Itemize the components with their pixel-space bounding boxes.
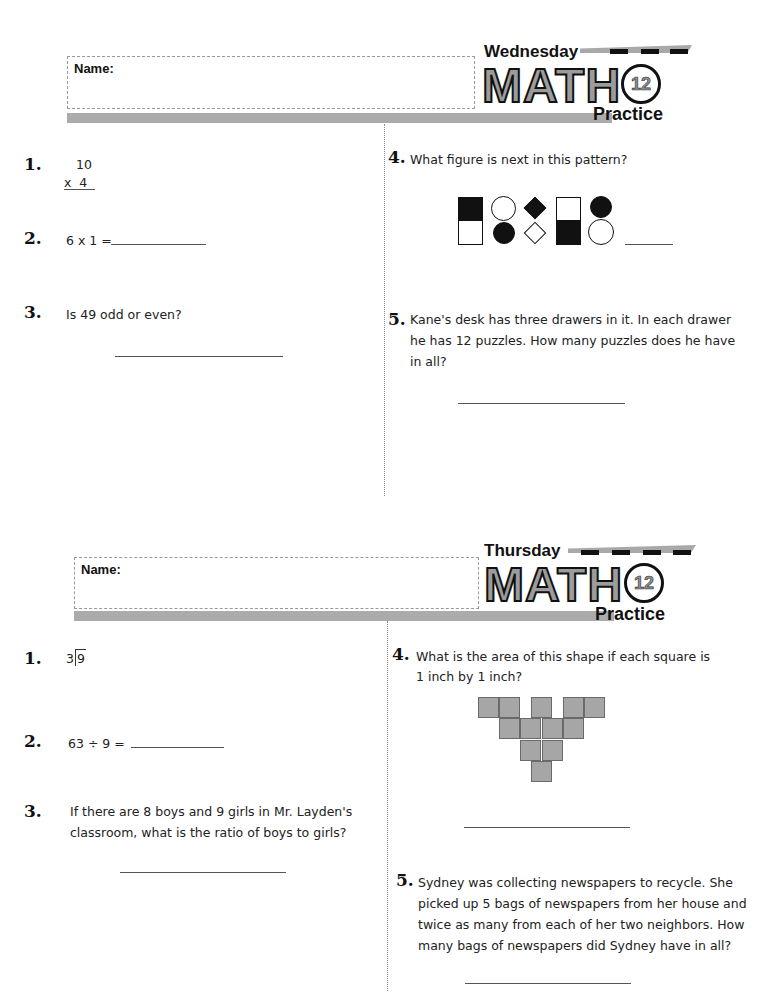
square-white-icon	[556, 197, 581, 221]
logo-math: MATH	[484, 561, 623, 609]
unit-square	[542, 740, 563, 761]
question-line: in all?	[410, 351, 447, 372]
column-divider	[384, 124, 385, 496]
logo-number-badge: 12	[624, 563, 664, 603]
unit-square	[531, 697, 552, 718]
diamond-white-icon	[524, 222, 547, 245]
question-number: 5.	[388, 309, 406, 329]
answer-line[interactable]	[131, 747, 224, 748]
logo-dash	[610, 49, 628, 54]
question-number: 1.	[24, 648, 42, 668]
product-line	[64, 189, 95, 190]
long-division: 39	[66, 651, 86, 666]
column-divider	[387, 621, 388, 991]
question-number: 4.	[388, 147, 406, 167]
name-label: Name:	[81, 562, 121, 577]
square-black-icon	[556, 220, 581, 245]
answer-line[interactable]	[458, 403, 625, 404]
divisor: 3	[66, 651, 74, 666]
circle-black-icon	[493, 222, 515, 244]
header-bar	[67, 113, 612, 123]
question-number: 4.	[392, 644, 410, 664]
question-line: 1 inch by 1 inch?	[416, 666, 522, 687]
logo-practice: Practice	[595, 604, 665, 625]
circle-black-icon	[590, 196, 612, 218]
answer-line[interactable]	[465, 983, 631, 984]
question-line: Kane's desk has three drawers in it. In …	[410, 309, 731, 330]
unit-square	[478, 697, 499, 718]
unit-square	[542, 718, 563, 739]
logo-practice: Practice	[593, 104, 663, 125]
name-label: Name:	[74, 61, 114, 76]
unit-square	[584, 697, 605, 718]
logo-math: MATH	[482, 62, 621, 110]
unit-square	[563, 697, 584, 718]
question-line: he has 12 puzzles. How many puzzles does…	[410, 330, 735, 351]
question-line: If there are 8 boys and 9 girls in Mr. L…	[70, 801, 352, 822]
unit-square	[531, 761, 552, 782]
unit-square	[499, 697, 520, 718]
unit-square	[520, 740, 541, 761]
dividend: 9	[77, 651, 85, 666]
unit-square	[499, 718, 520, 739]
question-number: 2.	[24, 731, 42, 751]
logo-dash	[641, 49, 659, 54]
question-number: 1.	[24, 154, 42, 174]
question-line: Sydney was collecting newspapers to recy…	[418, 872, 733, 893]
question-line: classroom, what is the ratio of boys to …	[70, 822, 346, 843]
circle-white-icon	[491, 196, 516, 221]
circle-white-icon	[588, 219, 614, 245]
question-number: 3.	[24, 302, 42, 322]
square-black-icon	[458, 197, 483, 221]
square-white-icon	[458, 220, 483, 245]
division-bracket: 9	[75, 649, 86, 666]
question-number: 5.	[396, 870, 414, 890]
logo-number-badge: 12	[621, 64, 661, 104]
question-text: 6 x 1 =	[66, 230, 112, 251]
question-line: twice as many from each of her two neigh…	[418, 914, 744, 935]
question-text: Is 49 odd or even?	[66, 304, 182, 325]
header-bar	[74, 611, 614, 621]
name-box[interactable]: Name:	[67, 56, 475, 109]
answer-line[interactable]	[120, 872, 286, 873]
logo-dash	[670, 49, 688, 54]
question-text: What figure is next in this pattern?	[410, 149, 627, 170]
question-line: What is the area of this shape if each s…	[416, 646, 710, 667]
logo-dash	[643, 550, 661, 555]
unit-square	[520, 718, 541, 739]
diamond-black-icon	[524, 197, 547, 220]
question-line: picked up 5 bags of newspapers from her …	[418, 893, 747, 914]
answer-line[interactable]	[115, 356, 283, 357]
name-box[interactable]: Name:	[74, 557, 479, 609]
question-number: 3.	[24, 801, 42, 821]
answer-line[interactable]	[464, 827, 630, 828]
question-line: many bags of newspapers did Sydney have …	[418, 935, 731, 956]
answer-line[interactable]	[111, 244, 206, 245]
logo-dash	[612, 550, 630, 555]
unit-square	[563, 718, 584, 739]
logo-dash	[673, 550, 691, 555]
logo-dash	[581, 550, 599, 555]
answer-line[interactable]	[625, 244, 673, 245]
question-text: 63 ÷ 9 =	[68, 733, 125, 754]
question-number: 2.	[24, 228, 42, 248]
